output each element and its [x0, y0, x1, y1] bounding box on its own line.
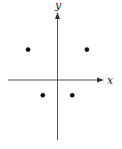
data-point-1 — [26, 47, 31, 52]
y-axis-arrow-icon — [55, 12, 60, 19]
x-axis-arrow-icon — [97, 78, 104, 83]
data-point-4 — [70, 93, 75, 98]
data-point-2 — [85, 47, 90, 52]
coordinate-diagram: x y — [0, 0, 122, 149]
y-axis-label: y — [54, 0, 62, 12]
data-point-3 — [41, 93, 46, 98]
x-axis-label: x — [107, 74, 114, 87]
